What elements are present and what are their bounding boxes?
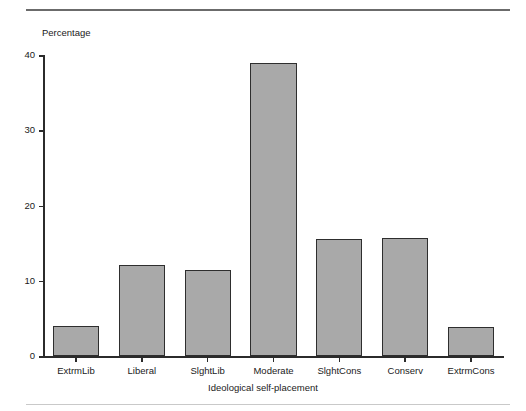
bottom-divider-rule bbox=[26, 404, 510, 405]
x-tick-label: Liberal bbox=[128, 365, 157, 377]
bar bbox=[185, 270, 231, 356]
y-tick-label: 0 bbox=[30, 350, 35, 361]
y-tick-mark bbox=[39, 281, 44, 283]
x-tick-mark bbox=[470, 357, 472, 362]
x-tick-label: SlghtLib bbox=[190, 365, 224, 377]
x-tick-label: Conserv bbox=[388, 365, 423, 377]
y-tick-mark bbox=[39, 130, 44, 132]
x-tick-label: Moderate bbox=[253, 365, 293, 377]
bar bbox=[119, 265, 165, 356]
x-tick-label: ExtrmCons bbox=[448, 365, 495, 377]
x-tick-mark bbox=[141, 357, 143, 362]
y-tick-mark bbox=[39, 356, 44, 358]
y-tick-mark bbox=[39, 206, 44, 208]
bar bbox=[448, 327, 494, 356]
bar-chart: Percentage 010203040 ExtrmLibLiberalSlgh… bbox=[0, 0, 526, 411]
x-tick-mark bbox=[339, 357, 341, 362]
bar bbox=[316, 239, 362, 356]
bar bbox=[250, 63, 296, 356]
bar bbox=[382, 238, 428, 356]
x-tick-label: ExtrmLib bbox=[57, 365, 94, 377]
x-tick-mark bbox=[404, 357, 406, 362]
bar bbox=[53, 326, 99, 356]
y-tick-label: 40 bbox=[24, 49, 35, 60]
x-tick-mark bbox=[273, 357, 275, 362]
y-tick-label: 20 bbox=[24, 200, 35, 211]
x-tick-mark bbox=[75, 357, 77, 362]
y-tick-mark bbox=[39, 55, 44, 57]
x-tick-mark bbox=[207, 357, 209, 362]
x-axis-label: Ideological self-placement bbox=[0, 382, 526, 394]
x-tick-label: SlghtCons bbox=[317, 365, 361, 377]
y-axis-label: Percentage bbox=[42, 27, 91, 38]
y-tick-label: 10 bbox=[24, 275, 35, 286]
y-tick-label: 30 bbox=[24, 124, 35, 135]
